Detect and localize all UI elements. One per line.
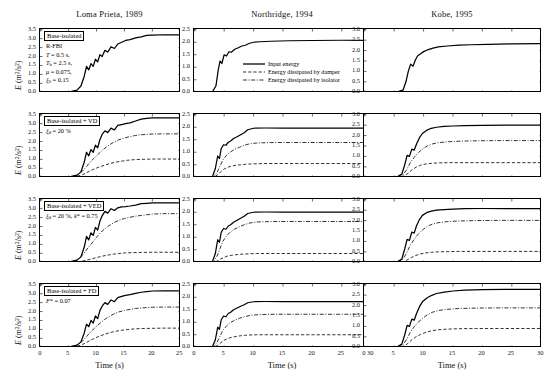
y-tick-label: 3.5 xyxy=(17,25,36,32)
y-tick-label: 1.5 xyxy=(173,305,190,312)
y-tick-label: 0.5 xyxy=(17,163,36,170)
x-tick-label: 0 xyxy=(31,349,49,356)
y-tick-label: 3.0 xyxy=(343,25,360,32)
x-axis-label-col-0: Time (s) xyxy=(39,360,180,370)
y-tick-label: 0.5 xyxy=(173,330,190,337)
y-tick-label: 0.5 xyxy=(343,77,360,84)
series-solid xyxy=(365,44,541,92)
y-tick-label: 3.0 xyxy=(343,280,360,287)
x-tick-label: 0 xyxy=(355,349,373,356)
case-param-r0-4: ξ0 = 0.15 xyxy=(46,76,69,85)
legend-swatch-dashed xyxy=(243,69,265,75)
y-tick-label: 3.0 xyxy=(17,34,36,41)
y-tick-label: 2.5 xyxy=(173,25,190,32)
y-tick-label: 0.5 xyxy=(343,247,360,254)
x-tick-label: 20 xyxy=(472,349,490,356)
y-tick-label: 0.0 xyxy=(343,172,360,179)
y-tick-label: 1.0 xyxy=(343,151,360,158)
y-tick-label: 1.0 xyxy=(17,324,36,331)
case-label-box-row-3: Base-isolated + FD xyxy=(44,286,99,296)
series-dashdot xyxy=(365,220,541,262)
y-tick-label: 1.0 xyxy=(343,66,360,73)
y-tick-label: 2.0 xyxy=(343,301,360,308)
y-tick-label: 2.5 xyxy=(17,298,36,305)
plot-panel-r1-c2 xyxy=(363,113,541,177)
y-tick-label: 0.5 xyxy=(17,78,36,85)
column-title-0: Loma Prieta, 1989 xyxy=(39,9,180,19)
x-axis-label-col-2: Time (s) xyxy=(363,360,541,370)
x-tick-label: 5 xyxy=(384,349,402,356)
case-label-box-row-0: Base-isolated xyxy=(44,31,84,41)
case-param-r1-0: ξd = 20 % xyxy=(46,127,71,136)
column-title-1: Northridge, 1994 xyxy=(193,9,371,19)
y-tick-label: 2.5 xyxy=(173,280,190,287)
y-tick-label: 2.5 xyxy=(173,195,190,202)
y-tick-label: 2.5 xyxy=(343,205,360,212)
series-dashdot xyxy=(41,134,180,177)
y-tick-label: 1.0 xyxy=(17,239,36,246)
series-dashed xyxy=(365,163,541,177)
y-tick-label: 2.5 xyxy=(343,35,360,42)
y-tick-label: 3.0 xyxy=(17,119,36,126)
x-tick-label: 25 xyxy=(332,349,350,356)
y-tick-label: 0.0 xyxy=(173,172,190,179)
y-tick-label: 1.5 xyxy=(173,220,190,227)
x-axis-label-col-1: Time (s) xyxy=(193,360,371,370)
y-tick-label: 1.5 xyxy=(17,315,36,322)
legend-label-2: Energy dissipated by isolator xyxy=(268,76,340,84)
y-tick-label: 2.5 xyxy=(173,110,190,117)
y-tick-label: 0.0 xyxy=(17,172,36,179)
series-solid xyxy=(365,209,541,263)
y-tick-label: 1.5 xyxy=(173,135,190,142)
series-dashdot xyxy=(365,308,541,347)
legend-entry-1: Energy dissipated by damper xyxy=(243,68,340,76)
y-tick-label: 3.0 xyxy=(343,195,360,202)
y-tick-label: 1.5 xyxy=(343,56,360,63)
x-tick-label: 25 xyxy=(502,349,520,356)
y-tick-label: 0.5 xyxy=(173,160,190,167)
series-dashed xyxy=(365,329,541,348)
x-tick-label: 5 xyxy=(59,349,77,356)
y-tick-label: 0.0 xyxy=(17,257,36,264)
case-label-box-row-1: Base-isolated + VD xyxy=(44,116,100,126)
series-dashed xyxy=(365,251,541,262)
x-tick-label: 20 xyxy=(142,349,160,356)
y-tick-label: 2.0 xyxy=(17,222,36,229)
y-tick-label: 2.5 xyxy=(343,290,360,297)
case-param-r2-0: ξd = 20 %, k* = 0.75 xyxy=(46,212,98,221)
y-tick-label: 2.0 xyxy=(173,292,190,299)
x-tick-label: 10 xyxy=(87,349,105,356)
x-tick-label: 0 xyxy=(185,349,203,356)
y-tick-label: 2.0 xyxy=(17,52,36,59)
y-tick-label: 1.5 xyxy=(17,145,36,152)
y-tick-label: 2.5 xyxy=(17,43,36,50)
case-param-r0-2: Tb = 2.5 s, xyxy=(46,59,72,68)
y-tick-label: 0.5 xyxy=(17,248,36,255)
y-tick-label: 3.0 xyxy=(343,110,360,117)
legend-swatch-solid xyxy=(243,61,265,67)
plot-panel-r0-c2 xyxy=(363,28,541,92)
y-tick-label: 3.5 xyxy=(17,280,36,287)
y-tick-label: 1.5 xyxy=(343,226,360,233)
column-title-2: Kobe, 1995 xyxy=(363,9,541,19)
y-tick-label: 2.0 xyxy=(17,307,36,314)
case-param-r0-0: R-FBI xyxy=(46,42,62,50)
y-tick-label: 0.0 xyxy=(343,87,360,94)
y-tick-label: 3.0 xyxy=(17,289,36,296)
x-tick-label: 10 xyxy=(244,349,262,356)
y-tick-label: 0.5 xyxy=(173,75,190,82)
y-tick-label: 0.5 xyxy=(343,332,360,339)
x-tick-label: 15 xyxy=(114,349,132,356)
y-tick-label: 2.0 xyxy=(343,216,360,223)
y-tick-label: 3.0 xyxy=(17,204,36,211)
legend-entry-0: Input energy xyxy=(243,60,340,68)
series-dashdot xyxy=(365,141,541,177)
y-tick-label: 3.5 xyxy=(17,110,36,117)
series-solid xyxy=(365,125,541,177)
legend-swatch-dashdot xyxy=(243,77,265,83)
x-tick-label: 30 xyxy=(531,349,546,356)
plot-panel-r2-c2 xyxy=(363,198,541,262)
legend-entry-2: Energy dissipated by isolator xyxy=(243,76,340,84)
y-tick-label: 1.0 xyxy=(17,69,36,76)
y-tick-label: 1.5 xyxy=(17,230,36,237)
